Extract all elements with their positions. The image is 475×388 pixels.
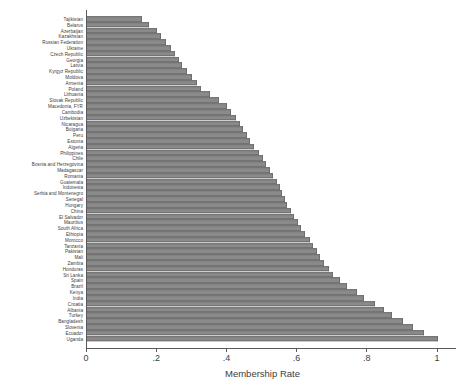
category-label: Poland <box>68 86 83 91</box>
category-label: Romania <box>64 173 83 178</box>
category-label: Spain <box>71 278 83 283</box>
bar-row: Uganda <box>86 336 437 342</box>
category-label: Slovenia <box>65 324 83 329</box>
category-label: Czech Republic <box>50 51 83 56</box>
category-label: South Africa <box>58 226 83 231</box>
category-label: Peru <box>73 133 83 138</box>
category-label: El Salvador <box>59 214 83 219</box>
plot-area: TajikistanBelarusAzerbaijanKazakhstanRus… <box>86 16 437 342</box>
category-label: Ecuador <box>66 330 83 335</box>
y-axis-line <box>86 10 87 348</box>
category-label: Philippines <box>60 150 83 155</box>
category-label: Belarus <box>67 22 83 27</box>
category-label: Macedonia, FYR <box>48 104 83 109</box>
category-label: Armenia <box>66 80 83 85</box>
category-label: Cambodia <box>62 109 83 114</box>
x-axis-tick <box>366 348 367 352</box>
x-axis-line <box>86 348 456 349</box>
category-label: Georgia <box>66 57 83 62</box>
x-axis-title: Membership Rate <box>0 368 475 379</box>
category-label: Serbia and Montenegro <box>34 191 83 196</box>
x-axis-tick-label: .4 <box>223 353 231 364</box>
membership-rate-bar-chart: TajikistanBelarusAzerbaijanKazakhstanRus… <box>0 0 475 388</box>
x-axis-tick <box>156 348 157 352</box>
category-label: Chile <box>72 156 83 161</box>
category-label: Madagascar <box>57 168 83 173</box>
x-axis-tick <box>296 348 297 352</box>
category-label: Turkey <box>69 313 83 318</box>
x-axis-tick <box>437 348 438 352</box>
category-label: Senegal <box>66 197 83 202</box>
category-label: Ukraine <box>67 45 83 50</box>
category-label: Bosnia and Herzegovina <box>32 162 83 167</box>
category-label: Algeria <box>68 144 83 149</box>
category-label: Latvia <box>70 63 83 68</box>
category-label: Pakistan <box>65 249 83 254</box>
category-label: Uganda <box>67 336 83 341</box>
category-label: Guatemala <box>60 179 83 184</box>
bar <box>86 336 438 342</box>
category-label: China <box>71 208 83 213</box>
x-axis-tick <box>226 348 227 352</box>
category-label: Russian Federation <box>42 40 83 45</box>
x-axis-tick-label: 0 <box>83 353 88 364</box>
category-label: Albania <box>67 307 83 312</box>
category-label: Uzbekistan <box>60 115 83 120</box>
category-label: Slovak Republic <box>49 98 83 103</box>
category-label: Kenya <box>70 290 83 295</box>
category-label: India <box>73 295 83 300</box>
category-label: Mauritius <box>64 220 83 225</box>
category-label: Zambia <box>67 261 83 266</box>
category-label: Sri Lanka <box>63 272 83 277</box>
category-label: Brazil <box>71 284 83 289</box>
category-label: Hungary <box>65 202 83 207</box>
category-label: Tanzania <box>64 243 83 248</box>
category-label: Indonesia <box>63 185 83 190</box>
category-label: Mali <box>74 255 83 260</box>
category-label: Kyrgyz Republic <box>49 69 83 74</box>
x-axis-tick <box>86 348 87 352</box>
category-label: Nicaragua <box>62 121 83 126</box>
x-axis-tick-label: .6 <box>293 353 301 364</box>
x-axis-tick-label: 1 <box>434 353 439 364</box>
category-label: Kazakhstan <box>58 34 83 39</box>
x-axis-tick-label: .2 <box>152 353 160 364</box>
category-label: Bangladesh <box>58 319 83 324</box>
x-axis-tick-label: .8 <box>363 353 371 364</box>
category-label: Moldova <box>65 75 83 80</box>
category-label: Honduras <box>63 266 83 271</box>
category-label: Morocco <box>65 237 83 242</box>
category-label: Tajikistan <box>64 16 83 21</box>
category-label: Estonia <box>67 138 83 143</box>
category-label: Lithuania <box>64 92 83 97</box>
category-label: Bulgaria <box>66 127 83 132</box>
category-label: Azerbaijan <box>61 28 83 33</box>
category-label: Ethiopia <box>66 231 83 236</box>
category-label: Croatia <box>68 301 83 306</box>
